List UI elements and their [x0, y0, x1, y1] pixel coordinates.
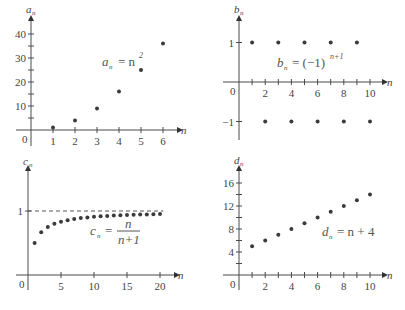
svg-text:= n: = n: [118, 54, 136, 69]
data-point: [342, 120, 346, 124]
svg-text:n: n: [284, 64, 288, 72]
y-tick-label: 12: [223, 200, 234, 212]
data-point: [289, 227, 293, 231]
y-tick-label: 1: [229, 37, 235, 49]
x-tick-label: 4: [289, 280, 295, 292]
x-tick-label: 4: [289, 87, 295, 99]
origin-label: 0: [22, 133, 28, 145]
data-point: [117, 90, 121, 94]
x-tick-label: 10: [89, 280, 101, 292]
data-point: [59, 220, 63, 224]
x-tick-label: 5: [138, 135, 144, 147]
data-point: [316, 120, 320, 124]
y-axis-sub-a: n: [32, 9, 36, 17]
x-tick-label: 3: [94, 135, 100, 147]
svg-text:= n + 4: = n + 4: [337, 224, 375, 239]
data-point: [72, 217, 76, 221]
y-tick-label: 1: [18, 205, 24, 217]
data-point: [329, 41, 333, 45]
data-point: [139, 68, 143, 72]
data-point: [105, 214, 109, 218]
data-point: [46, 225, 50, 229]
svg-text:=: =: [105, 223, 112, 238]
data-point: [316, 216, 320, 220]
y-tick-label: 30: [15, 52, 27, 64]
formula-a: a n = n 2: [102, 51, 143, 71]
svg-text:c: c: [90, 223, 96, 238]
x-tick-label: 20: [155, 280, 167, 292]
formula-b: b n = (−1) n+1: [277, 52, 343, 72]
data-point: [368, 120, 372, 124]
chart-a-n-squared: 012345610203040: [15, 15, 183, 147]
data-point: [51, 126, 55, 130]
x-tick-label: 8: [341, 280, 347, 292]
data-point: [118, 213, 122, 217]
y-axis-sub-d: n: [240, 160, 244, 168]
y-tick-label: 40: [15, 28, 27, 40]
y-axis-sub-b: n: [240, 9, 244, 17]
data-point: [329, 210, 333, 214]
x-tick-label: 6: [315, 280, 321, 292]
data-point: [250, 41, 254, 45]
data-point: [263, 239, 267, 243]
data-point: [138, 213, 142, 217]
chart-b-alternating: 02468101−1: [222, 15, 388, 140]
origin-label: 0: [19, 278, 25, 290]
x-axis-label-d: n: [387, 269, 393, 281]
data-point: [263, 120, 267, 124]
chart-panel: 012345610203040 a n n a n = n 2 02468101…: [0, 0, 405, 310]
origin-label: 0: [230, 85, 236, 97]
y-tick-label: 8: [229, 223, 235, 235]
data-point: [368, 193, 372, 197]
x-tick-label: 2: [262, 87, 268, 99]
data-point: [250, 244, 254, 248]
x-tick-label: 15: [122, 280, 134, 292]
data-point: [161, 42, 165, 46]
svg-text:n: n: [97, 232, 101, 240]
svg-text:2: 2: [139, 51, 143, 60]
x-tick-label: 4: [116, 135, 122, 147]
x-tick-label: 10: [365, 87, 377, 99]
origin-label: 0: [230, 278, 236, 290]
data-point: [355, 41, 359, 45]
y-tick-label: 10: [15, 100, 27, 112]
data-point: [85, 215, 89, 219]
y-tick-label: 4: [229, 246, 235, 258]
x-axis-label-b: n: [387, 76, 393, 88]
svg-text:b: b: [277, 55, 284, 70]
data-point: [99, 214, 103, 218]
y-tick-label: 16: [223, 177, 235, 189]
x-tick-label: 6: [160, 135, 166, 147]
x-tick-label: 2: [262, 280, 268, 292]
x-tick-label: 2: [72, 135, 78, 147]
x-axis-label-c: n: [178, 269, 184, 281]
data-point: [303, 41, 307, 45]
data-point: [33, 241, 37, 245]
data-point: [151, 212, 155, 216]
svg-text:n: n: [125, 216, 132, 231]
svg-text:= (−1): = (−1): [292, 55, 325, 70]
svg-text:n+1: n+1: [118, 232, 140, 247]
y-axis-label-c: c: [23, 155, 28, 167]
formula-c: c n = n n+1: [90, 216, 140, 247]
y-tick-label: −1: [222, 116, 234, 128]
x-tick-label: 8: [341, 87, 347, 99]
data-point: [276, 233, 280, 237]
data-point: [92, 215, 96, 219]
svg-text:d: d: [322, 224, 329, 239]
data-point: [132, 213, 136, 217]
data-point: [112, 214, 116, 218]
chart-c-converging: 051015201: [16, 165, 180, 292]
svg-text:a: a: [102, 54, 109, 69]
data-point: [73, 118, 77, 122]
data-point: [158, 212, 162, 216]
y-axis-sub-c: n: [29, 161, 33, 169]
svg-text:n+1: n+1: [330, 52, 343, 61]
data-point: [39, 230, 43, 234]
data-point: [289, 120, 293, 124]
x-tick-label: 5: [58, 280, 64, 292]
data-point: [355, 198, 359, 202]
data-point: [303, 221, 307, 225]
data-point: [66, 218, 70, 222]
svg-text:n: n: [109, 63, 113, 71]
